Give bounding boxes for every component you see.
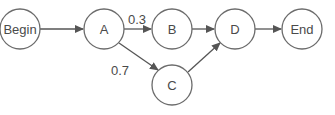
node-label: C [167, 78, 176, 93]
node-label: A [100, 22, 109, 37]
node-label: Begin [3, 22, 36, 37]
node-label: B [168, 22, 177, 37]
edge-label-a-b: 0.3 [128, 12, 146, 27]
node-begin[interactable]: Begin [0, 9, 40, 49]
node-b[interactable]: B [152, 9, 192, 49]
node-d[interactable]: D [215, 9, 255, 49]
node-label: End [290, 22, 313, 37]
node-end[interactable]: End [282, 9, 322, 49]
node-a[interactable]: A [84, 9, 124, 49]
node-label: D [230, 22, 239, 37]
edge-c-d [188, 43, 220, 72]
flow-diagram: 0.3 0.7 Begin A B C D End [0, 0, 335, 115]
node-c[interactable]: C [152, 65, 192, 105]
edge-label-a-c: 0.7 [111, 63, 129, 78]
